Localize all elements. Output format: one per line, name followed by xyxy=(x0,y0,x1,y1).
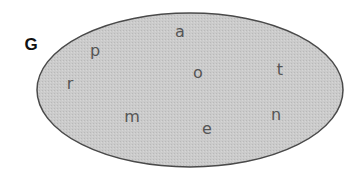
set-g-ellipse xyxy=(37,13,343,167)
set-element: o xyxy=(193,65,203,81)
set-label-g: G xyxy=(24,36,37,53)
set-element: p xyxy=(90,43,100,59)
set-element: e xyxy=(202,121,212,137)
set-diagram: G p a r o t m e n xyxy=(0,0,358,173)
set-element: r xyxy=(67,76,74,92)
set-element: m xyxy=(124,109,140,125)
set-element: n xyxy=(271,107,281,123)
set-element: t xyxy=(277,62,283,78)
set-element: a xyxy=(175,24,185,40)
